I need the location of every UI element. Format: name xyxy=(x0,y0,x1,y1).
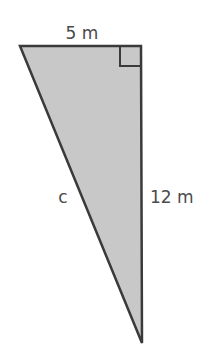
right-side-label: 12 m xyxy=(150,187,194,207)
triangle-diagram: 5 m c 12 m xyxy=(0,0,207,354)
top-side-label: 5 m xyxy=(66,23,99,43)
right-triangle xyxy=(20,46,142,343)
hypotenuse-label: c xyxy=(58,187,67,207)
